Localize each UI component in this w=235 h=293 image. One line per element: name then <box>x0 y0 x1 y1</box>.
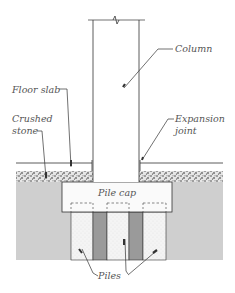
label-column: Column <box>175 43 212 54</box>
piles <box>71 212 166 260</box>
pile-foundation-diagram: Column Floor slab Crushed stone Expansio… <box>0 0 235 293</box>
label-piles: Piles <box>97 270 121 281</box>
label-crushed-stone-line1: Crushed <box>12 113 53 124</box>
label-pile-cap: Pile cap <box>97 187 136 198</box>
label-crushed-stone-line2: stone <box>12 125 39 136</box>
label-expansion-joint-line2: joint <box>173 125 197 136</box>
column <box>88 16 145 182</box>
label-floor-slab: Floor slab <box>11 84 60 95</box>
label-expansion-joint-line1: Expansion <box>174 113 225 124</box>
